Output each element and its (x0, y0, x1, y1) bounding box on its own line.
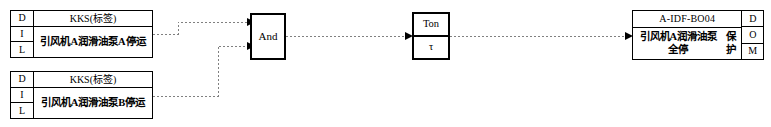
input-signal-block-b[interactable]: D I L KKS(标签) 引风机A润滑油泵B停运 (10, 71, 153, 119)
output-dom-column: D O M (742, 11, 763, 59)
signal-i-cell-a: I (11, 26, 33, 42)
signal-description-a: 引风机A润滑油泵A停运 (34, 27, 152, 57)
signal-description-b: 引风机A润滑油泵B停运 (34, 88, 152, 118)
logic-diagram: D I L KKS(标签) 引风机A润滑油泵A停运 D I L KKS(标签) … (0, 0, 771, 127)
signal-dil-column-a: D I L (11, 11, 34, 57)
wire-input-a-to-and (153, 22, 247, 34)
signal-d-cell-b: D (11, 72, 33, 87)
timer-label: Ton (414, 14, 448, 37)
timer-parameter: τ (414, 37, 448, 58)
output-signal-block[interactable]: A-IDF-BO04 引风机A润滑油泵全停保护 D O M (632, 10, 764, 60)
signal-content-b: KKS(标签) 引风机A润滑油泵B停运 (34, 72, 152, 118)
output-description: 引风机A润滑油泵全停保护 (633, 28, 741, 59)
signal-content-a: KKS(标签) 引风机A润滑油泵A停运 (34, 11, 152, 57)
signal-kks-header-b: KKS(标签) (34, 72, 152, 88)
signal-i-cell-b: I (11, 87, 33, 103)
signal-l-cell-a: L (11, 41, 33, 57)
signal-d-cell-a: D (11, 11, 33, 26)
output-code: A-IDF-BO04 (633, 11, 741, 28)
output-description-line1: 引风机A润滑油泵全停 (635, 31, 722, 55)
wire-input-b-to-and (153, 46, 247, 96)
and-gate-block[interactable]: And (250, 13, 286, 60)
and-gate-label: And (259, 31, 278, 42)
output-d-cell: D (742, 11, 763, 26)
output-content: A-IDF-BO04 引风机A润滑油泵全停保护 (633, 11, 742, 59)
output-m-cell: M (742, 43, 763, 59)
output-o-cell: O (742, 26, 763, 42)
signal-dil-column-b: D I L (11, 72, 34, 118)
on-delay-timer-block[interactable]: Ton τ (412, 12, 450, 60)
output-description-line2: 保护 (722, 31, 740, 55)
signal-kks-header-a: KKS(标签) (34, 11, 152, 27)
input-signal-block-a[interactable]: D I L KKS(标签) 引风机A润滑油泵A停运 (10, 10, 153, 58)
signal-l-cell-b: L (11, 102, 33, 118)
